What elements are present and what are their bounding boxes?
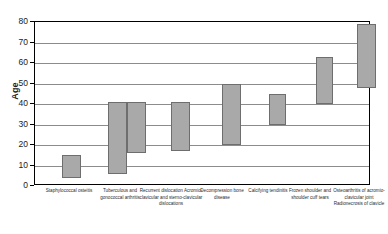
bar bbox=[62, 155, 81, 178]
y-axis-tick-label: 30 bbox=[2, 120, 28, 129]
y-axis-tick-label: 10 bbox=[2, 161, 28, 170]
bar bbox=[108, 102, 127, 174]
bar bbox=[127, 102, 146, 153]
bar bbox=[222, 84, 241, 146]
gridline bbox=[35, 43, 369, 44]
bar bbox=[171, 102, 190, 151]
y-axis-tick-label: 60 bbox=[2, 58, 28, 67]
gridline bbox=[35, 125, 369, 126]
x-axis-category-label: Osteoarthritis of acromio-clavicular joi… bbox=[330, 188, 388, 208]
y-axis-tick-label: 70 bbox=[2, 38, 28, 47]
y-axis-tick-label: 0 bbox=[2, 181, 28, 190]
x-axis-category-label: Decompression bone disease bbox=[194, 188, 250, 201]
y-axis-tick-label: 20 bbox=[2, 140, 28, 149]
y-axis-tick-label: 50 bbox=[2, 79, 28, 88]
y-axis-tick-label: 40 bbox=[2, 99, 28, 108]
bar bbox=[269, 94, 286, 125]
gridline bbox=[35, 166, 369, 167]
y-axis-tick-mark bbox=[30, 185, 34, 186]
bar bbox=[316, 57, 333, 104]
x-axis-category-labels: Staphylococcal osteitisTuberculous and g… bbox=[34, 188, 370, 234]
gridline bbox=[35, 104, 369, 105]
y-axis-tick-label: 80 bbox=[2, 17, 28, 26]
plot-area bbox=[34, 21, 370, 185]
x-axis-category-label: Staphylococcal osteitis bbox=[40, 188, 98, 195]
gridline bbox=[35, 145, 369, 146]
bar bbox=[357, 24, 376, 88]
